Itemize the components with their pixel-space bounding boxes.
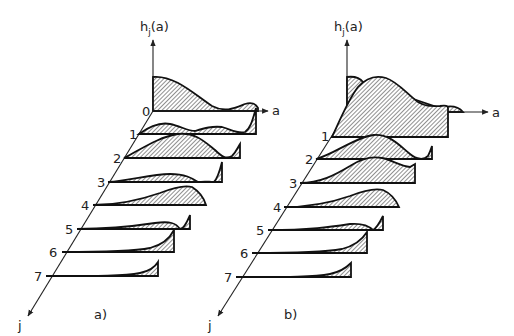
row-label-1-a: 1 (129, 127, 137, 142)
panel-b: hj(a) a 1 2 3 4 5 6 (207, 19, 500, 333)
histogram-row-4-a (93, 186, 206, 205)
y-axis-label-b: hj(a) (334, 19, 363, 37)
histogram-row-5-b (268, 216, 383, 230)
histogram-row-3-a (108, 162, 222, 182)
depth-axis-label-a: j (17, 318, 22, 333)
histogram-row-7-b (236, 263, 351, 277)
caption-a: a) (94, 307, 107, 322)
y-axis-label-a: hj(a) (140, 19, 169, 37)
row-label-6-a: 6 (49, 245, 57, 260)
row-label-7-a: 7 (34, 269, 42, 284)
x-axis-label-b: a (492, 105, 500, 120)
row-label-3-a: 3 (97, 175, 105, 190)
histogram-row-7-a (46, 262, 158, 276)
row-label-4-a: 4 (81, 198, 89, 213)
histogram-stack-figure: hj(a) a j 0 1 2 3 4 (0, 0, 514, 336)
row-label-0-a: 0 (142, 104, 150, 119)
row-label-1-b: 1 (321, 129, 329, 144)
row-label-2-a: 2 (113, 151, 121, 166)
histogram-row-3-b (300, 157, 415, 183)
row-label-3-b: 3 (289, 176, 297, 191)
row-label-4-b: 4 (273, 200, 281, 215)
x-axis-label-a: a (272, 103, 280, 118)
panel-a: hj(a) a j 0 1 2 3 4 (17, 19, 280, 333)
depth-axis-label-b: j (207, 318, 212, 333)
row-label-7-b: 7 (224, 270, 232, 285)
row-label-5-b: 5 (256, 223, 264, 238)
row-label-2-b: 2 (305, 152, 313, 167)
histogram-row-2-a (124, 134, 240, 158)
histogram-row-4-b (284, 189, 399, 207)
histogram-row-5-a (77, 215, 190, 229)
histogram-row-0-a (153, 77, 258, 111)
caption-b: b) (284, 307, 297, 322)
histogram-row-2-b (316, 135, 432, 159)
row-label-5-a: 5 (65, 222, 73, 237)
row-label-6-b: 6 (240, 246, 248, 261)
